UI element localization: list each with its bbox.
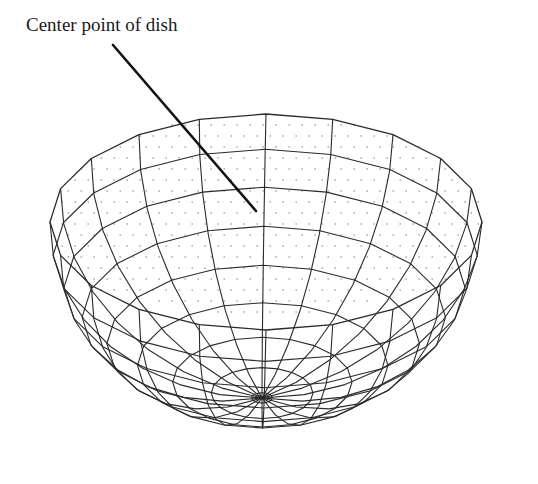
wire-line: [199, 325, 262, 426]
leader-line: [113, 45, 256, 211]
dish-center-point: [260, 396, 264, 400]
wire-line: [199, 119, 262, 398]
wire-line: [61, 189, 262, 398]
wire-line: [91, 159, 262, 399]
dish-front-wall: [50, 114, 482, 428]
dish-wireframe: [0, 0, 538, 484]
wire-line: [91, 286, 262, 409]
wire-line: [262, 119, 333, 398]
surface-dot-pattern: [61, 124, 478, 312]
